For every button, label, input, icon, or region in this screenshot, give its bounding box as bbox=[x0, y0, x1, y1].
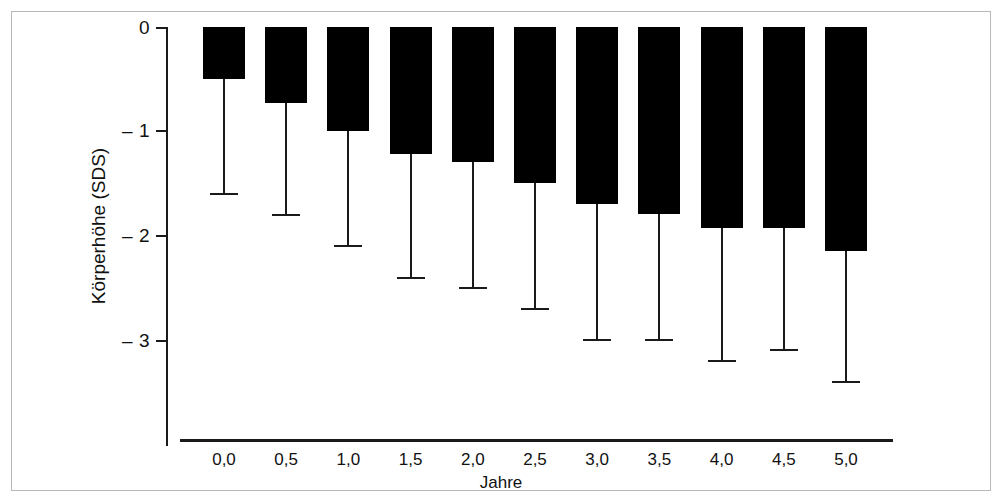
bar-0-5 bbox=[265, 27, 307, 103]
error-bar-cap-2-5 bbox=[521, 308, 549, 310]
x-tick-label-3-5: 3,5 bbox=[631, 450, 687, 470]
error-bar-stem-4-0 bbox=[721, 228, 723, 360]
error-bar-cap-2-0 bbox=[459, 287, 487, 289]
x-tick-label-4-0: 4,0 bbox=[694, 450, 750, 470]
error-bar-cap-4-5 bbox=[770, 349, 798, 351]
y-tick-label-1: – 1 bbox=[104, 120, 150, 142]
error-bar-cap-3-5 bbox=[645, 339, 673, 341]
bar-4-0 bbox=[701, 27, 743, 228]
error-bar-stem-2-0 bbox=[472, 162, 474, 287]
plot-area: Körperhöhe (SDS) 0 – 1 – 2 – 3 Jahre 0,0… bbox=[0, 0, 1002, 503]
error-bar-stem-3-5 bbox=[658, 214, 660, 339]
y-tick-label-3: – 3 bbox=[104, 330, 150, 352]
bar-3-0 bbox=[576, 27, 618, 204]
error-bar-stem-5-0 bbox=[845, 251, 847, 381]
bar-2-0 bbox=[452, 27, 494, 162]
bar-3-5 bbox=[638, 27, 680, 214]
y-tick-label-0: 0 bbox=[104, 17, 150, 39]
x-tick-label-1-5: 1,5 bbox=[383, 450, 439, 470]
y-tick-label-2: – 2 bbox=[104, 225, 150, 247]
x-tick-label-1-0: 1,0 bbox=[320, 450, 376, 470]
error-bar-stem-4-5 bbox=[783, 228, 785, 350]
error-bar-stem-2-5 bbox=[534, 183, 536, 308]
x-axis-title: Jahre bbox=[0, 473, 1002, 493]
error-bar-cap-4-0 bbox=[708, 360, 736, 362]
error-bar-cap-1-0 bbox=[334, 245, 362, 247]
error-bar-stem-1-0 bbox=[347, 131, 349, 245]
x-tick-label-0-5: 0,5 bbox=[258, 450, 314, 470]
x-tick-label-3-0: 3,0 bbox=[569, 450, 625, 470]
x-tick-label-2-0: 2,0 bbox=[445, 450, 501, 470]
error-bar-stem-0-0 bbox=[223, 79, 225, 193]
error-bar-stem-0-5 bbox=[285, 103, 287, 214]
x-tick-label-2-5: 2,5 bbox=[507, 450, 563, 470]
bar-1-0 bbox=[327, 27, 369, 131]
y-tick-mark-3 bbox=[156, 340, 168, 342]
y-tick-mark-0 bbox=[156, 27, 168, 29]
y-tick-mark-1 bbox=[156, 130, 168, 132]
chart-page: Körperhöhe (SDS) 0 – 1 – 2 – 3 Jahre 0,0… bbox=[0, 0, 1002, 503]
error-bar-cap-3-0 bbox=[583, 339, 611, 341]
bar-2-5 bbox=[514, 27, 556, 183]
y-tick-mark-2 bbox=[156, 235, 168, 237]
x-tick-label-0-0: 0,0 bbox=[196, 450, 252, 470]
bar-0-0 bbox=[203, 27, 245, 79]
bar-5-0 bbox=[825, 27, 867, 251]
error-bar-cap-5-0 bbox=[832, 381, 860, 383]
bar-4-5 bbox=[763, 27, 805, 228]
error-bar-stem-3-0 bbox=[596, 204, 598, 339]
x-tick-label-5-0: 5,0 bbox=[818, 450, 874, 470]
error-bar-cap-0-5 bbox=[272, 214, 300, 216]
error-bar-stem-1-5 bbox=[410, 154, 412, 277]
error-bar-cap-1-5 bbox=[397, 277, 425, 279]
x-axis-line bbox=[180, 439, 893, 442]
bar-1-5 bbox=[390, 27, 432, 154]
error-bar-cap-0-0 bbox=[210, 193, 238, 195]
x-tick-label-4-5: 4,5 bbox=[756, 450, 812, 470]
